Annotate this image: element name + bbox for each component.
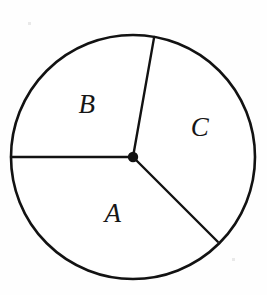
center-point-dot bbox=[128, 152, 138, 162]
sector-label-b: B bbox=[79, 89, 96, 119]
sector-label-a: A bbox=[103, 198, 122, 228]
sector-label-c: C bbox=[191, 112, 210, 142]
scan-speck bbox=[28, 22, 31, 25]
figure-root: B C A bbox=[0, 0, 267, 295]
scan-speck bbox=[232, 258, 235, 261]
circle-sector-diagram: B C A bbox=[0, 0, 267, 295]
